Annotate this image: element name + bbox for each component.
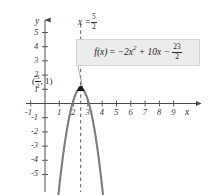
formula-equals: = [110,47,115,57]
formula-callout-box: f(x) = −2x2 + 10x − 232 [76,39,200,66]
y-axis [42,20,48,192]
x-axis [26,101,196,107]
x-tick-4: 4 [100,108,104,117]
x-tick-neg1: -1 [25,108,32,117]
x-tick-2: 2 [71,108,75,117]
formula-exponent: 2 [133,45,136,52]
x-axis-label: x [185,108,189,118]
x-tick-3: 3 [86,108,90,117]
y-tick-4: 4 [34,42,38,51]
formula-term2: + 10x − [139,47,170,57]
y-tick-3: 3 [34,56,38,65]
formula-text: f(x) = −2x2 + 10x − 232 [94,43,181,61]
vertex-coordinate-label: (52, 1) [32,73,53,90]
formula-const-denominator: 2 [172,53,181,62]
parabola-graph-figure: y x 5 4 3 2 1 -1 -2 -3 -4 -5 -1 1 2 3 4 … [0,0,208,195]
y-tick-neg3: -3 [31,141,38,150]
formula-lhs: f(x) [94,47,107,57]
y-tick-neg2: -2 [31,127,38,136]
asymptote-fraction: 52 [91,13,97,31]
asymptote-denominator: 2 [91,23,97,32]
y-tick-5: 5 [34,28,38,37]
x-tick-6: 6 [128,108,132,117]
y-tick-neg4: -4 [31,155,38,164]
plot-canvas [0,0,208,195]
x-tick-7: 7 [143,108,147,117]
x-tick-5: 5 [114,108,118,117]
vertex-rest: , 1) [41,76,53,86]
formula-constant-fraction: 232 [172,43,181,61]
x-tick-8: 8 [157,108,161,117]
asymptote-label: x =52 [78,13,97,31]
y-axis-label: y [35,17,39,27]
x-tick-9: 9 [171,108,175,117]
vertex-marker [76,85,85,91]
x-tick-1: 1 [57,108,61,117]
formula-term1: −2x [118,47,133,57]
y-tick-neg5: -5 [31,169,38,178]
asymptote-prefix: x = [78,17,91,27]
